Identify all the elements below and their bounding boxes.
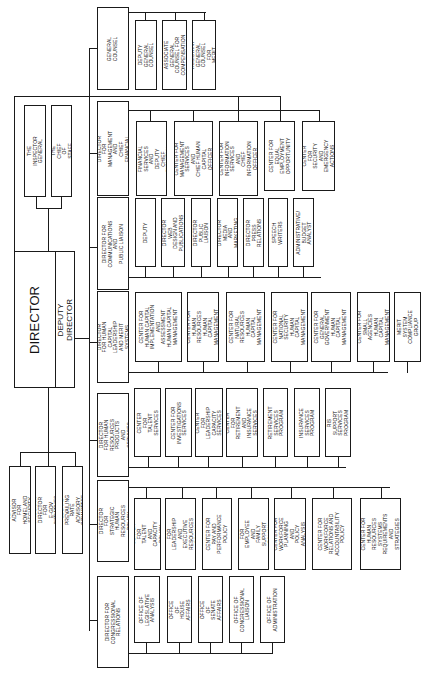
director-box[interactable]: DIRECTOR (14, 251, 56, 388)
connector (216, 487, 217, 498)
connector (48, 208, 49, 252)
connector (275, 457, 276, 468)
connector (175, 12, 176, 20)
connector (253, 267, 254, 278)
connector (128, 110, 320, 111)
box-label: SPEECH WRITERS (272, 221, 283, 244)
hc-child-box[interactable]: MERIT SYSTEM COMPLIANCE GROUP (394, 292, 421, 362)
cfo-child-box[interactable]: CENTER FOR INFORMATION SERVICES AND CHIE… (219, 121, 258, 196)
hc-child-box[interactable]: CENTER FOR SMALL AGENCIES HUMAN CAPITAL … (357, 292, 390, 362)
box-label: CENTER FOR RETIREMENT AND INSURANCE SERV… (226, 406, 258, 439)
connector (128, 277, 321, 278)
inspector-general-box[interactable]: THE INSPECTOR GENERAL (24, 105, 46, 197)
hc-child-box[interactable]: CENTER FOR HUMAN RESOURCES HUMAN CAPITAL… (187, 292, 219, 362)
shrp-child-box[interactable]: CENTER FOR WORKFORCE RELATIONS AND ACCOU… (312, 498, 352, 570)
hrps-child-box[interactable]: CENTER FOR INVESTIGATIONS SERVICES (165, 388, 192, 457)
shrp-child-box[interactable]: CENTER FOR EMPLOYEE AND FAMILY SUPPORT P… (238, 498, 269, 570)
division-head-cfo[interactable]: ASSOCIATE DIRECTOR FOR MANAGEMENT AND CH… (97, 101, 129, 196)
hc-child-box[interactable]: CENTER FOR GENERAL GOVERNMENT HUMAN CAPI… (311, 292, 351, 362)
connector (89, 524, 97, 525)
connector (278, 267, 279, 278)
connector (238, 96, 239, 121)
box-label: THE INSPECTOR GENERAL (27, 136, 44, 166)
box-label: CENTER FOR HUMAN RESOURCES SYSTEMS REQUI… (361, 514, 400, 555)
box-label: OFFICE OF ADMINISTRATION (267, 588, 278, 631)
cr-child-box[interactable]: OFFICE OF ADMINISTRATION (260, 576, 285, 643)
connector (251, 487, 252, 498)
box-label: ASSOCIATE DIRECTOR FOR MANAGEMENT AND CH… (97, 130, 129, 166)
cfo-child-box[interactable]: CENTER FOR MANAGEMENT SERVICES AND CHIEF… (174, 121, 213, 196)
deputy-director-box[interactable]: DEPUTY DIRECTOR (55, 251, 75, 388)
gc-child-box[interactable]: ASSISTANT GENERAL COUNSEL FOR MERIT (192, 20, 216, 90)
division-head-communications[interactable]: DIRECTOR FOR COMMUNICATIONS AND PUBLIC L… (97, 197, 129, 290)
comms-child-box[interactable]: DIRECTOR PRESS RELATIONS (243, 198, 264, 267)
box-label: PROGRAM DIRECTOR FOR E-GOV INITIATIVES (35, 496, 56, 525)
connector (242, 457, 243, 468)
box-label: THE CHIEF OF STAFF (51, 143, 72, 159)
box-label: ADMINISTRATIVE/ BUDGET ANALYST (295, 211, 312, 255)
connector (331, 362, 332, 373)
gc-child-box[interactable]: ASSOCIATE GENERAL COUNSEL FOR COMPENSATI… (162, 20, 187, 90)
chief-of-staff-box[interactable]: THE CHIEF OF STAFF (51, 105, 72, 197)
cr-child-box[interactable]: OFFICE OF SENATE AFFAIRS (198, 576, 223, 643)
box-label: DIRECTOR MEDIA AND MARKETING (217, 217, 238, 247)
box-label: GENERAL COUNSEL (107, 36, 118, 61)
connector (20, 452, 21, 466)
cr-child-box[interactable]: OFFICE OF HOUSE AFFAIRS (167, 576, 192, 643)
division-head-strategic-hr[interactable]: ASSOCIATE DIRECTOR FOR STRATEGIC HUMAN R… (97, 480, 129, 562)
shrp-child-box[interactable]: CENTER FOR TALENT AND CAPACITY POLICY (134, 498, 161, 570)
advisor-homeland-security-box[interactable]: SENIOR ADVISOR FOR HOMELAND SECURITY (9, 466, 31, 554)
box-label: DIRECTOR FOR CONGRESSIONAL RELATIONS (105, 600, 122, 644)
comms-child-box[interactable]: SPEECH WRITERS (268, 198, 288, 267)
general-counsel-box[interactable]: GENERAL COUNSEL (97, 7, 129, 90)
cr-child-box[interactable]: OFFICE OF LEGISLATIVE ANALYSIS (134, 576, 160, 643)
cfo-child-box[interactable]: CENTER FOR EQUAL EMPLOYMENT OPPORTUNITY (264, 121, 295, 191)
hrps-child-box[interactable]: CENTER FOR LEADERSHIP CAPACITY SERVICES (195, 388, 223, 457)
connector (291, 487, 292, 498)
box-label: CENTER FOR SECURITY AND EMERGENCY ACTION… (302, 140, 335, 173)
connector (128, 653, 273, 654)
connector (173, 267, 174, 278)
connector (203, 362, 204, 373)
hrps-child-box[interactable]: INSURANCE SERVICES PROGRAM (294, 388, 320, 457)
box-label: CENTER FOR NATURAL RESOURCES HUMAN CAPIT… (229, 309, 263, 345)
cfo-child-box[interactable]: CENTER FOR SECURITY AND EMERGENCY ACTION… (302, 121, 335, 191)
hrps-child-box[interactable]: CENTER FOR RETIREMENT AND INSURANCE SERV… (226, 388, 258, 457)
shrp-child-box[interactable]: CENTER FOR HUMAN RESOURCES SYSTEMS REQUI… (360, 498, 401, 570)
comms-child-box[interactable]: DIRECTOR WEB DESIGN AND PUBLICATIONS (161, 198, 185, 267)
gc-child-box[interactable]: DEPUTY GENERAL COUNSEL (135, 20, 157, 90)
connector (128, 372, 388, 373)
connector (89, 153, 97, 154)
hc-child-box[interactable]: CENTER FOR HUMAN CAPITAL IMPLEMENTATION … (135, 292, 182, 362)
box-label: DIRECTOR PRESS RELATIONS (245, 218, 262, 246)
hc-child-box[interactable]: CENTER FOR NATIONAL SECURITY HUMAN CAPIT… (271, 292, 308, 362)
comms-child-box[interactable]: DIRECTOR MEDIA AND MARKETING (217, 198, 238, 267)
hrps-child-box[interactable]: RIS SUPPORT SERVICES PROGRAM (325, 388, 351, 457)
connector (178, 457, 179, 468)
connector (373, 362, 374, 373)
hrps-child-box[interactable]: CENTER FOR TALENT SERVICES (134, 388, 161, 457)
comms-child-box[interactable]: DEPUTY (135, 198, 156, 267)
advisor-prevailing-rate-box[interactable]: FEDERAL PREVAILING RATE ADVISORY COMMITT… (62, 466, 83, 554)
connector (280, 96, 281, 121)
cfo-child-box[interactable]: CENTER FOR FINANCIAL SERVICES AND DEPUTY… (136, 121, 167, 196)
comms-child-box[interactable]: DIRECTOR PUBLIC LIAISON (191, 198, 211, 267)
division-head-hr-products[interactable]: ASSOCIATE DIRECTOR FOR HUMAN RESOURCES P… (97, 393, 129, 477)
division-head-hc-leadership[interactable]: ASSOCIATE DIRECTOR FOR HUMAN CAPITAL LEA… (97, 291, 129, 383)
connector-main-spine (89, 48, 90, 631)
advisor-egov-box[interactable]: PROGRAM DIRECTOR FOR E-GOV INITIATIVES (35, 466, 56, 554)
shrp-child-box[interactable]: CENTER FOR PAY AND PERFORMANCE POLICY (202, 498, 232, 570)
connector (228, 267, 229, 278)
comms-child-box[interactable]: ADMINISTRATIVE/ BUDGET ANALYST (293, 198, 314, 267)
shrp-child-box[interactable]: CENTER FOR WORKFORCE PLANNING AND POLICY… (274, 498, 306, 570)
cr-child-box[interactable]: OFFICE OF CONGRESSIONAL LIAISON (229, 576, 254, 643)
division-head-congressional[interactable]: DIRECTOR FOR CONGRESSIONAL RELATIONS (97, 576, 129, 668)
connector (61, 196, 62, 209)
hrps-child-box[interactable]: RETIREMENT SERVICES PROGRAM (263, 388, 288, 457)
connector (128, 12, 206, 13)
shrp-child-box[interactable]: CENTER FOR LEADERSHIP AND EXECUTIVE RESO… (165, 498, 196, 570)
connector (89, 440, 97, 441)
hc-child-box[interactable]: CENTER FOR NATURAL RESOURCES HUMAN CAPIT… (226, 292, 265, 362)
connector (145, 12, 146, 20)
connector (75, 452, 76, 466)
